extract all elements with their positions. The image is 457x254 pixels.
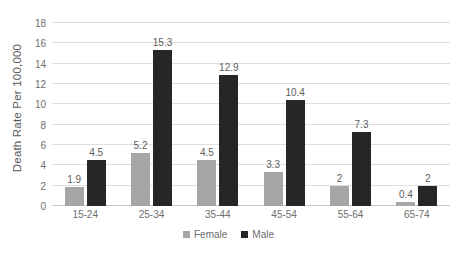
x-tick-label-35-44: 35-44: [183, 209, 253, 220]
gridline: [52, 185, 450, 186]
x-tick-label-55-64: 55-64: [316, 209, 386, 220]
legend-swatch-icon: [183, 231, 190, 238]
chart-legend: FemaleMale: [0, 229, 457, 240]
bar-male-55-64[interactable]: [352, 132, 371, 206]
gridline: [52, 22, 450, 23]
gridline: [52, 124, 450, 125]
y-tick-label: 14: [18, 58, 46, 69]
legend-item-male[interactable]: Male: [241, 229, 274, 240]
legend-label: Male: [252, 229, 274, 240]
bar-value-label: 15.3: [143, 37, 183, 48]
bar-male-65-74[interactable]: [418, 186, 437, 206]
bar-value-label: 2: [408, 173, 448, 184]
legend-swatch-icon: [241, 231, 248, 238]
axis-baseline: [52, 205, 450, 206]
y-tick-label: 8: [18, 119, 46, 130]
x-tick-label-45-54: 45-54: [249, 209, 319, 220]
gridline: [52, 83, 450, 84]
bar-male-15-24[interactable]: [87, 160, 106, 206]
bar-female-35-44[interactable]: [197, 160, 216, 206]
y-tick-label: 0: [18, 201, 46, 212]
bar-female-15-24[interactable]: [65, 187, 84, 206]
y-tick-label: 18: [18, 18, 46, 29]
bar-chart: Death Rate Per 100,000 024681012141618 1…: [0, 0, 457, 254]
y-tick-label: 6: [18, 140, 46, 151]
bar-male-35-44[interactable]: [219, 75, 238, 206]
bar-value-label: 7.3: [342, 119, 382, 130]
x-tick-label-65-74: 65-74: [382, 209, 452, 220]
bar-value-label: 12.9: [209, 62, 249, 73]
y-tick-label: 2: [18, 180, 46, 191]
y-tick-label: 12: [18, 79, 46, 90]
bar-female-55-64[interactable]: [330, 186, 349, 206]
y-axis-title-text: Death Rate Per 100,000: [11, 43, 23, 171]
gridline: [52, 164, 450, 165]
y-tick-label: 16: [18, 38, 46, 49]
bar-male-25-34[interactable]: [153, 50, 172, 206]
gridline: [52, 63, 450, 64]
bar-female-65-74[interactable]: [396, 202, 415, 206]
bar-value-label: 10.4: [275, 87, 315, 98]
bar-male-45-54[interactable]: [286, 100, 305, 206]
gridline: [52, 144, 450, 145]
y-tick-label: 4: [18, 160, 46, 171]
gridline: [52, 103, 450, 104]
y-tick-label: 10: [18, 99, 46, 110]
bar-female-25-34[interactable]: [131, 153, 150, 206]
x-tick-label-15-24: 15-24: [50, 209, 120, 220]
bar-female-45-54[interactable]: [264, 172, 283, 206]
bar-value-label: 4.5: [76, 147, 116, 158]
x-axis-tick-labels: 15-2425-3435-4445-5455-6465-74: [52, 209, 450, 225]
legend-label: Female: [194, 229, 227, 240]
legend-item-female[interactable]: Female: [183, 229, 227, 240]
x-tick-label-25-34: 25-34: [117, 209, 187, 220]
y-axis-title: Death Rate Per 100,000: [0, 0, 34, 215]
gridline: [52, 42, 450, 43]
plot-area: 1.94.55.215.34.512.93.310.427.30.42: [52, 23, 450, 206]
